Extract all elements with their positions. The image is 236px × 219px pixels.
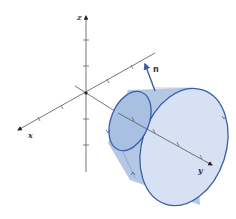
- x-axis-label: x: [27, 130, 33, 140]
- y-axis-back: [75, 86, 118, 113]
- z-axis-label: z: [76, 12, 82, 22]
- origin-point: [84, 91, 87, 94]
- normal-vector-label: n: [153, 65, 159, 74]
- normal-vector: n: [145, 64, 159, 91]
- cone-surface-diagram: z x y: [0, 0, 236, 219]
- cone-surface: [101, 77, 236, 217]
